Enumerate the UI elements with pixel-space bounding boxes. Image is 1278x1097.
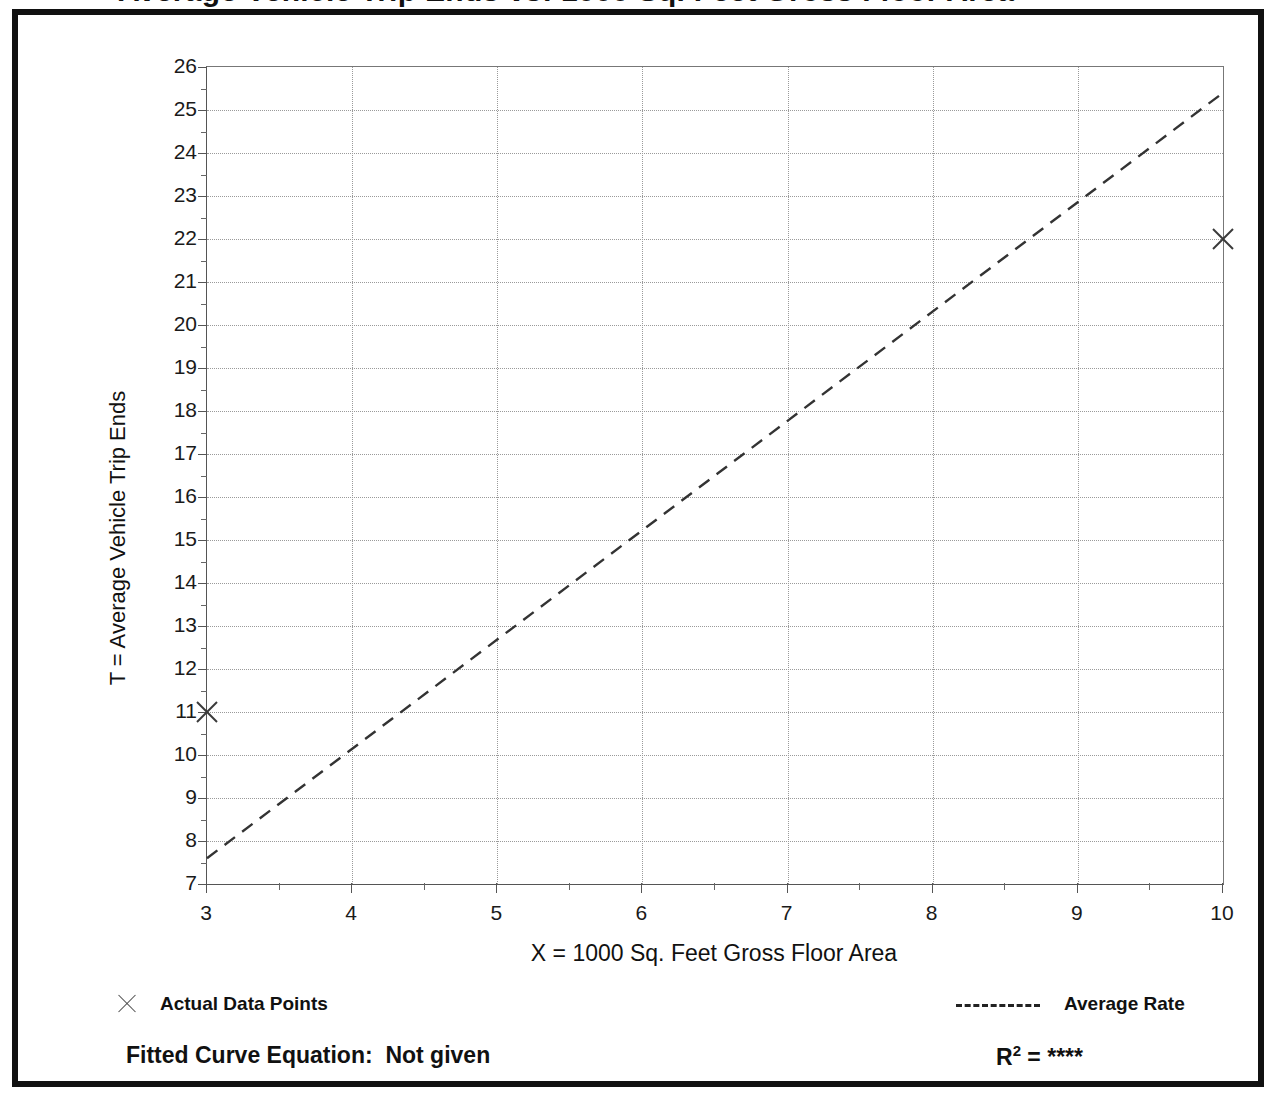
legend-label-average-rate: Average Rate (1064, 993, 1185, 1015)
y-tick-major (198, 325, 207, 326)
x-tick-major (1077, 883, 1078, 893)
y-tick-major (198, 540, 207, 541)
chart-legend: Actual Data Points Average Rate (88, 993, 1228, 1027)
average-rate-line (207, 93, 1223, 858)
y-axis-title: T = Average Vehicle Trip Ends (105, 258, 131, 818)
y-tick-label: 12 (137, 656, 197, 680)
x-axis-title: X = 1000 Sq. Feet Gross Floor Area (206, 940, 1222, 967)
legend-item-actual-data-points: Actual Data Points (116, 993, 328, 1015)
y-tick-label: 14 (137, 570, 197, 594)
y-tick-major (198, 454, 207, 455)
x-tick-minor (279, 883, 280, 890)
data-point-x-marker (1213, 229, 1233, 249)
x-tick-minor (1004, 883, 1005, 890)
y-tick-major (198, 669, 207, 670)
average-rate-trendline (207, 93, 1223, 858)
y-tick-label: 21 (137, 269, 197, 293)
x-tick-minor (424, 883, 425, 890)
x-marker-icon (116, 993, 138, 1015)
r-squared-exponent: 2 (1013, 1042, 1021, 1059)
y-tick-major (198, 196, 207, 197)
chart-footer: Fitted Curve Equation: Not given R2 = **… (88, 1042, 1228, 1082)
y-tick-major (198, 798, 207, 799)
r-squared-label: R (996, 1044, 1013, 1070)
y-tick-label: 8 (137, 828, 197, 852)
y-tick-major (198, 411, 207, 412)
x-tick-label: 3 (176, 901, 236, 925)
y-tick-major (198, 497, 207, 498)
y-tick-major (198, 626, 207, 627)
y-tick-label: 23 (137, 183, 197, 207)
legend-item-average-rate: Average Rate (956, 993, 1185, 1015)
chart-area: T = Average Vehicle Trip Ends 7891011121… (18, 15, 1258, 1081)
chart-frame: T = Average Vehicle Trip Ends 7891011121… (12, 9, 1264, 1087)
x-tick-label: 10 (1192, 901, 1252, 925)
x-tick-label: 8 (902, 901, 962, 925)
x-tick-major (496, 883, 497, 893)
y-tick-label: 11 (137, 699, 197, 723)
r-squared-stars: **** (1047, 1044, 1083, 1070)
x-tick-label: 6 (611, 901, 671, 925)
r-squared-value: R2 = **** (996, 1042, 1083, 1071)
y-tick-label: 18 (137, 398, 197, 422)
dashed-line-icon (956, 1004, 1040, 1007)
x-tick-major (206, 883, 207, 893)
y-tick-label: 22 (137, 226, 197, 250)
page-title-cutoff: Average Vehicle Trip Ends vs: 1000 Sq. F… (0, 0, 1278, 9)
y-tick-major (198, 282, 207, 283)
y-tick-label: 7 (137, 871, 197, 895)
x-tick-major (351, 883, 352, 893)
y-tick-label: 16 (137, 484, 197, 508)
x-tick-label: 9 (1047, 901, 1107, 925)
x-tick-major (787, 883, 788, 893)
fitted-curve-equation: Fitted Curve Equation: Not given (126, 1042, 490, 1069)
y-tick-label: 9 (137, 785, 197, 809)
y-tick-label: 17 (137, 441, 197, 465)
x-tick-major (641, 883, 642, 893)
x-tick-minor (1149, 883, 1150, 890)
x-tick-minor (714, 883, 715, 890)
y-tick-label: 19 (137, 355, 197, 379)
x-tick-minor (859, 883, 860, 890)
y-tick-label: 10 (137, 742, 197, 766)
y-tick-major (198, 841, 207, 842)
fitted-curve-equation-value: Not given (385, 1042, 490, 1068)
y-tick-major (198, 368, 207, 369)
y-tick-label: 15 (137, 527, 197, 551)
fitted-curve-equation-label: Fitted Curve Equation: (126, 1042, 373, 1068)
y-tick-label: 13 (137, 613, 197, 637)
x-tick-label: 5 (466, 901, 526, 925)
x-tick-major (932, 883, 933, 893)
y-axis-title-wrapper: T = Average Vehicle Trip Ends (78, 135, 118, 735)
x-tick-major (1222, 883, 1223, 893)
y-tick-label: 20 (137, 312, 197, 336)
y-tick-major (198, 583, 207, 584)
y-tick-label: 24 (137, 140, 197, 164)
r-squared-equals: = (1027, 1044, 1040, 1070)
x-tick-minor (569, 883, 570, 890)
series-overlay (207, 67, 1223, 884)
y-tick-label: 25 (137, 97, 197, 121)
x-tick-label: 7 (757, 901, 817, 925)
y-tick-major (198, 239, 207, 240)
y-tick-major (198, 110, 207, 111)
page-title-text: Average Vehicle Trip Ends vs: 1000 Sq. F… (118, 0, 1014, 8)
actual-data-points (197, 229, 1233, 722)
y-tick-major (198, 67, 207, 68)
plot-area: 7891011121314151617181920212223242526 (206, 66, 1224, 885)
y-tick-major (198, 153, 207, 154)
x-tick-label: 4 (321, 901, 381, 925)
x-axis-ticks: 345678910 (206, 883, 1222, 929)
y-tick-label: 26 (137, 54, 197, 78)
legend-label-actual-data-points: Actual Data Points (160, 993, 328, 1015)
y-tick-major (198, 755, 207, 756)
